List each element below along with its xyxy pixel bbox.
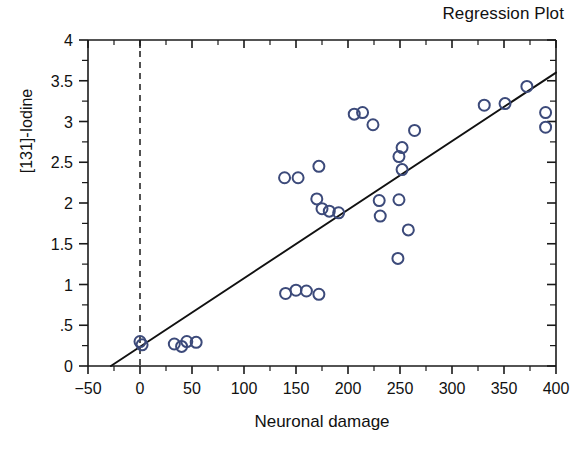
- y-tick-label: 4: [64, 32, 73, 49]
- regression-fit-line: [111, 73, 556, 366]
- x-tick-label: 400: [543, 380, 570, 397]
- data-point: [291, 285, 302, 296]
- data-point: [280, 288, 291, 299]
- data-point: [375, 211, 386, 222]
- data-point: [392, 253, 403, 264]
- y-tick-label: 1: [64, 277, 73, 294]
- data-point: [293, 172, 304, 183]
- regression-line: [111, 73, 556, 366]
- x-tick-label: 300: [439, 380, 466, 397]
- x-tick-label: 250: [387, 380, 414, 397]
- y-tick-label: 2: [64, 195, 73, 212]
- y-tick-label: 0: [64, 358, 73, 375]
- x-tick-label: −50: [74, 380, 101, 397]
- data-point: [317, 203, 328, 214]
- data-point: [313, 289, 324, 300]
- x-tick-label: 0: [136, 380, 145, 397]
- data-point: [403, 224, 414, 235]
- data-point: [367, 119, 378, 130]
- scatter-plot-canvas: −50050100150200250300350400 0.511.522.53…: [0, 0, 578, 458]
- data-point: [409, 125, 420, 136]
- regression-plot-figure: Regression Plot [131]-Iodine Neuronal da…: [0, 0, 578, 458]
- data-point: [301, 286, 312, 297]
- x-tick-label: 100: [231, 380, 258, 397]
- y-tick-label: 3.5: [51, 73, 73, 90]
- data-point: [393, 194, 404, 205]
- x-tick-label: 150: [283, 380, 310, 397]
- data-point: [313, 161, 324, 172]
- x-axis-minor-ticks: [114, 40, 530, 371]
- data-point-markers: [135, 81, 552, 352]
- x-tick-label: 350: [491, 380, 518, 397]
- y-tick-label: 3: [64, 114, 73, 131]
- y-tick-label: .5: [60, 317, 73, 334]
- data-point: [540, 122, 551, 133]
- data-point: [279, 172, 290, 183]
- y-tick-label: 2.5: [51, 154, 73, 171]
- data-point: [521, 81, 532, 92]
- data-point: [479, 100, 490, 111]
- x-tick-label: 50: [183, 380, 201, 397]
- x-axis-tick-labels: −50050100150200250300350400: [74, 380, 569, 397]
- y-axis-major-ticks: [79, 40, 556, 366]
- y-axis-tick-labels: 0.511.522.533.54: [51, 32, 73, 375]
- x-tick-label: 200: [335, 380, 362, 397]
- data-point: [374, 195, 385, 206]
- y-tick-label: 1.5: [51, 236, 73, 253]
- data-point: [169, 338, 180, 349]
- x-axis-major-ticks: [88, 40, 556, 374]
- data-point: [540, 107, 551, 118]
